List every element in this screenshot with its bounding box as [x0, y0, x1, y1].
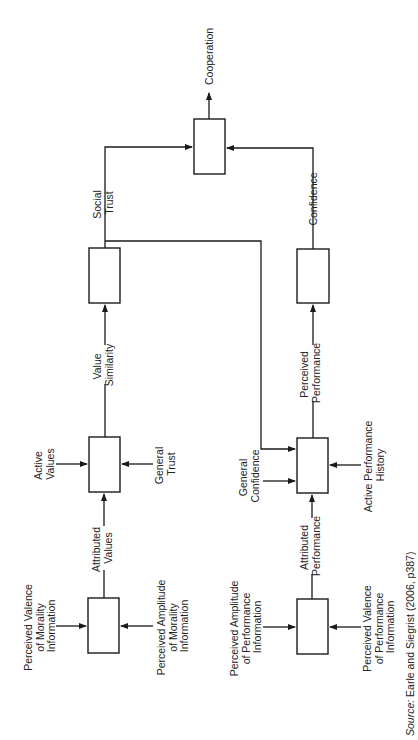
amplitude-performance-label: Perceived Amplitude of Performance Infor… — [228, 578, 263, 677]
trust-confidence-cooperation-diagram: Cooperation Social Trust Confidence Valu… — [0, 0, 418, 740]
source-caption: Source: Earle and Siegrist (2006, p387) — [404, 552, 416, 736]
cooperation-box — [194, 119, 225, 174]
attributed-performance-box — [297, 599, 328, 654]
attributed-performance-label: Attributed Performance — [298, 516, 322, 576]
cooperation-label: Cooperation — [203, 28, 215, 85]
social-trust-label: Social Trust — [91, 187, 115, 219]
perceived-performance-box — [297, 438, 328, 493]
general-trust-label: General Trust — [153, 444, 177, 484]
valence-morality-label: Perceived Valence of Morality Informatio… — [22, 581, 57, 671]
social-trust-box — [89, 248, 120, 303]
amplitude-morality-label: Perceived Amplitude of Morality Informat… — [155, 577, 190, 676]
active-performance-history-label: Active Performance History — [362, 418, 386, 513]
general-confidence-label: General Confidence — [237, 449, 261, 502]
social-trust-to-performance-arrow — [105, 241, 295, 449]
attributed-values-label: Attributed Values — [90, 524, 114, 572]
value-similarity-label: Value Similarity — [91, 343, 115, 386]
valence-performance-label: Perceived Valence of Performance Informa… — [361, 582, 396, 672]
attributed-values-box — [88, 598, 119, 653]
value-similarity-box — [89, 437, 120, 492]
social-trust-to-cooperation-arrow — [105, 147, 192, 248]
confidence-box — [297, 249, 329, 303]
active-values-label: Active Values — [32, 448, 56, 480]
confidence-to-cooperation-arrow — [227, 148, 313, 249]
confidence-label: Confidence — [307, 172, 319, 225]
perceived-performance-label: Perceived Performance — [298, 343, 322, 403]
